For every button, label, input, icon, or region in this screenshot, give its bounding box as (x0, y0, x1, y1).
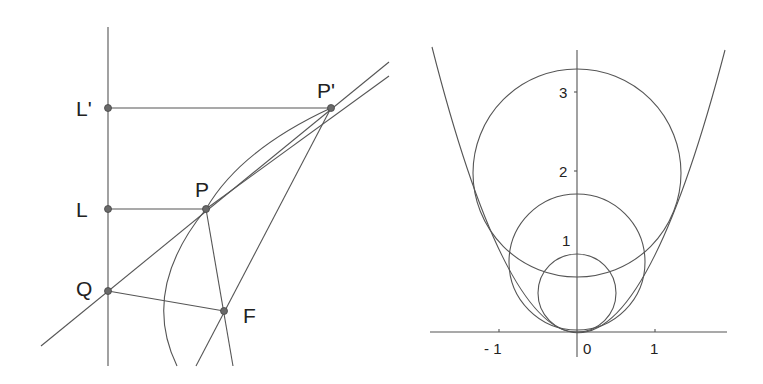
diagram-canvas: L' P' L P Q F 3 2 1 - 1 0 1 (0, 0, 763, 384)
point-l (105, 206, 112, 213)
point-l-prime (105, 105, 112, 112)
point-p-prime (328, 105, 335, 112)
label-q: Q (76, 277, 92, 300)
y-label-1: 1 (562, 232, 570, 249)
segment-p-f (206, 209, 233, 366)
label-p: P (195, 178, 209, 201)
point-f (221, 308, 228, 315)
label-l-prime: L' (76, 97, 92, 120)
parabola-curve (432, 47, 725, 333)
label-p-prime: P' (317, 79, 335, 102)
right-figure: 3 2 1 - 1 0 1 (430, 47, 727, 357)
label-l: L (76, 198, 88, 221)
x-label-neg1: - 1 (484, 340, 502, 357)
point-p (203, 206, 210, 213)
y-label-2: 2 (559, 163, 567, 180)
y-label-3: 3 (559, 84, 567, 101)
x-label-1: 1 (650, 340, 658, 357)
parabola-arc (164, 108, 331, 366)
tangent-line (41, 62, 389, 346)
label-f: F (243, 304, 256, 327)
x-label-0: 0 (583, 340, 591, 357)
point-q (105, 288, 112, 295)
secant-line (206, 76, 389, 209)
segment-q-f (108, 291, 224, 311)
left-figure: L' P' L P Q F (41, 27, 389, 366)
